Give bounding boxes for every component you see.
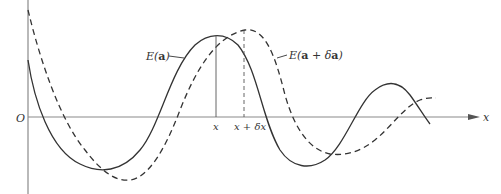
label-e-a-plus-delta-a: E(a + δa)	[288, 49, 343, 62]
curve-e-a-plus-delta-a	[28, 10, 436, 180]
leader-e-a	[169, 56, 184, 58]
diagram: O x E(a) E(a + δa) x x + δx	[0, 0, 501, 194]
tick-label-x: x	[213, 121, 219, 132]
origin-label: O	[16, 112, 25, 125]
x-axis-label: x	[483, 111, 490, 124]
x-axis-arrowhead-icon	[468, 114, 480, 120]
leader-e-a-plus-delta-a	[277, 55, 287, 58]
tick-label-x-plus-dx: x + δx	[234, 121, 266, 132]
curve-e-a	[28, 36, 430, 170]
label-e-a: E(a)	[145, 50, 170, 63]
